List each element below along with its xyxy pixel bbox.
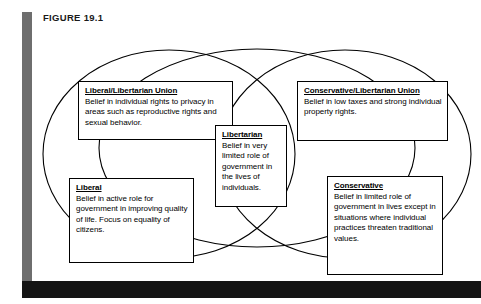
box-liberal: Liberal Belief in active role for govern…: [69, 178, 194, 263]
box-title: Libertarian: [222, 130, 281, 141]
figure-number-label: FIGURE 19.1: [43, 12, 103, 23]
box-body: Belief in very limited role of governmen…: [222, 141, 281, 194]
box-body: Belief in individual rights to privacy i…: [85, 97, 227, 129]
box-conservative-libertarian-union: Conservative/Libertarian Union Belief in…: [297, 81, 448, 141]
box-conservative: Conservative Belief in limited role of g…: [327, 176, 443, 275]
box-body: Belief in active role for government in …: [76, 194, 188, 236]
figure-plate: FIGURE 19.1 Liberal/Libertarian Union Be…: [0, 0, 481, 304]
box-title: Liberal: [76, 183, 188, 194]
venn-diagram-canvas: Liberal/Libertarian Union Belief in indi…: [33, 26, 481, 281]
plate-left-rule: [22, 12, 32, 293]
box-title: Conservative/Libertarian Union: [304, 86, 442, 97]
box-title: Conservative: [334, 181, 437, 192]
box-body: Belief in low taxes and strong individua…: [304, 97, 442, 118]
box-body: Belief in limited role of government in …: [334, 192, 437, 245]
box-title: Liberal/Libertarian Union: [85, 86, 227, 97]
box-liberal-libertarian-union: Liberal/Libertarian Union Belief in indi…: [78, 81, 233, 140]
box-libertarian: Libertarian Belief in very limited role …: [215, 125, 287, 207]
plate-bottom-band: [22, 281, 481, 298]
